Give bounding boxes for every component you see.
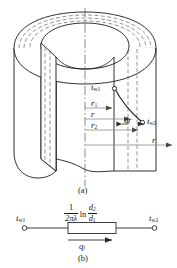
terminal-node-right <box>152 226 157 231</box>
thermal-resistance-box <box>68 223 116 234</box>
label-r2: r2 <box>91 121 97 131</box>
figure-vector-canvas <box>0 0 177 268</box>
caption-panel-b: (b) <box>78 254 88 263</box>
label-radial-axis: r <box>152 136 156 145</box>
thermal-circuit <box>22 223 157 241</box>
formula-coefficient: 1 2πλ <box>64 203 78 224</box>
cutaway-wedge-fill <box>41 43 56 171</box>
label-resistance-formula: 1 2πλ ln d2 d1 <box>64 203 97 224</box>
label-r: r <box>91 110 95 119</box>
label-terminal-tw2: tw2 <box>149 214 158 224</box>
formula-diameter-ratio: d2 d1 <box>88 203 97 224</box>
tw1-marker <box>112 86 116 90</box>
terminal-node-left <box>22 226 27 231</box>
label-dr: dr <box>124 116 132 125</box>
formula-ln-operator: ln <box>78 209 88 219</box>
caption-panel-a: (a) <box>78 186 87 195</box>
formula-d1: d1 <box>88 214 97 224</box>
label-heat-flow-ql: ql <box>79 242 85 252</box>
label-terminal-tw1: tw1 <box>16 214 25 224</box>
label-tw2: tw2 <box>147 117 156 127</box>
label-tw1: tw1 <box>91 83 100 93</box>
label-r1: r1 <box>91 99 97 109</box>
cylinder-conduction-figure: tw1 tw2 r1 r r2 dr r (a) tw1 tw2 1 2πλ l… <box>0 0 177 268</box>
